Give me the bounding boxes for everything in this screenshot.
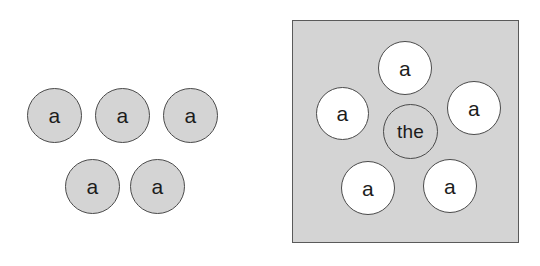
node-the-center: the <box>383 104 438 159</box>
node-label: a <box>444 176 456 197</box>
node-a-left-3: a <box>163 88 218 143</box>
diagram-canvas: a a a a a a a a the a <box>0 0 540 266</box>
node-label: a <box>87 176 99 197</box>
node-label: a <box>468 98 480 119</box>
node-a-left-2: a <box>95 88 150 143</box>
node-a-left-5: a <box>130 159 185 214</box>
left-group-panel: a a a a a <box>0 0 270 266</box>
node-a-right-bottom-left: a <box>341 161 395 215</box>
right-group-panel: a a a the a a <box>270 0 540 266</box>
node-label: a <box>399 58 411 79</box>
node-a-left-1: a <box>27 88 82 143</box>
node-a-right-bottom-right: a <box>423 159 477 213</box>
node-label: a <box>117 105 129 126</box>
node-label: a <box>185 105 197 126</box>
node-label: a <box>49 105 61 126</box>
node-a-right-left: a <box>316 87 369 140</box>
node-a-right-right: a <box>447 81 501 135</box>
node-a-right-top: a <box>378 41 432 95</box>
node-a-left-4: a <box>65 159 120 214</box>
node-label: a <box>362 178 374 199</box>
node-label: a <box>337 103 349 124</box>
node-label: the <box>397 122 424 141</box>
node-label: a <box>152 176 164 197</box>
